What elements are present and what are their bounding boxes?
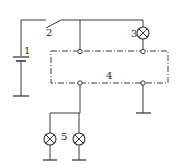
- label-battery: 1: [24, 45, 30, 56]
- terminal-node: [78, 49, 82, 53]
- lamp-icon: [73, 133, 85, 145]
- circuit-diagram: 1 2 3 4: [0, 0, 182, 165]
- terminal-node: [141, 81, 145, 85]
- label-lamps-bottom: 5: [61, 131, 67, 142]
- label-module: 4: [106, 70, 112, 81]
- label-lamp-top: 3: [131, 28, 137, 39]
- terminal-node: [78, 81, 82, 85]
- terminal-node: [141, 49, 145, 53]
- battery-icon: [13, 20, 29, 96]
- lamp-icon: [44, 133, 56, 145]
- label-switch: 2: [46, 27, 52, 38]
- lamp-icon: [137, 27, 149, 39]
